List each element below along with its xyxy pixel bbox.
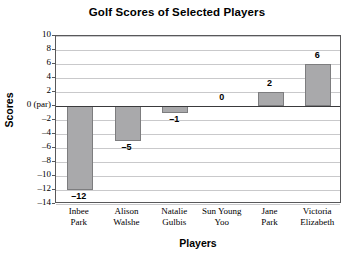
- bar-value-label: 2: [246, 78, 294, 88]
- bar-value-label: 6: [293, 50, 341, 60]
- gridline: [56, 204, 340, 205]
- bar-value-label: –1: [150, 114, 198, 124]
- y-tick-label: –2: [3, 113, 51, 123]
- gridline: [56, 36, 340, 37]
- y-tick-mark: [52, 49, 55, 50]
- gridline: [56, 162, 340, 163]
- y-tick-mark: [52, 119, 55, 120]
- gridline: [56, 64, 340, 65]
- bar: [115, 106, 141, 141]
- y-tick-label: 8: [3, 43, 51, 53]
- y-tick-label: –8: [3, 155, 51, 165]
- y-tick-label: 2: [3, 85, 51, 95]
- gridline: [56, 120, 340, 121]
- bar-value-label: –5: [103, 142, 151, 152]
- y-tick-label: 0 (par): [3, 99, 51, 109]
- y-tick-mark: [52, 161, 55, 162]
- gridline: [56, 176, 340, 177]
- x-tick-label: VictoriaElizabeth: [287, 206, 347, 228]
- y-tick-label: 4: [3, 71, 51, 81]
- y-tick-label: –10: [3, 169, 51, 179]
- y-tick-label: –12: [3, 183, 51, 193]
- bar-chart: Golf Scores of Selected Players Scores P…: [0, 0, 354, 263]
- y-tick-mark: [52, 147, 55, 148]
- bar: [258, 92, 284, 106]
- x-axis-title: Players: [55, 237, 341, 249]
- zero-line: [56, 106, 340, 107]
- y-tick-label: 10: [3, 29, 51, 39]
- gridline: [56, 148, 340, 149]
- y-tick-mark: [52, 133, 55, 134]
- y-tick-mark: [52, 35, 55, 36]
- y-tick-mark: [52, 77, 55, 78]
- chart-title: Golf Scores of Selected Players: [0, 6, 354, 18]
- bar: [305, 64, 331, 106]
- plot-area: [55, 35, 341, 203]
- y-tick-label: –6: [3, 141, 51, 151]
- y-tick-mark: [52, 63, 55, 64]
- bar-value-label: –12: [55, 191, 103, 201]
- y-tick-mark: [52, 105, 55, 106]
- x-tick-label-line: Elizabeth: [287, 217, 347, 228]
- y-tick-mark: [52, 189, 55, 190]
- y-tick-mark: [52, 175, 55, 176]
- bar-value-label: 0: [198, 92, 246, 102]
- y-tick-mark: [52, 91, 55, 92]
- y-tick-label: –14: [3, 197, 51, 207]
- bar: [67, 106, 93, 190]
- x-tick-label-line: Victoria: [287, 206, 347, 217]
- y-tick-label: 6: [3, 57, 51, 67]
- gridline: [56, 78, 340, 79]
- gridline: [56, 134, 340, 135]
- y-tick-mark: [52, 203, 55, 204]
- bar: [162, 106, 188, 113]
- y-tick-label: –4: [3, 127, 51, 137]
